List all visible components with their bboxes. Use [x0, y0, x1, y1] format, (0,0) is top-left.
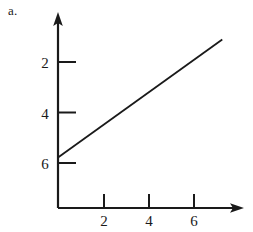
- x-tick-label-2: 2: [100, 213, 108, 229]
- x-axis-tick-labels: 2 4 6: [100, 213, 198, 229]
- data-line-series: [58, 40, 222, 158]
- chart-canvas: 2 4 6 2 4 6: [0, 0, 253, 232]
- y-axis-ticks: [58, 62, 76, 163]
- figure-panel: a. 2 4 6 2: [0, 0, 253, 232]
- x-axis-ticks: [104, 194, 194, 208]
- x-tick-label-6: 6: [190, 213, 198, 229]
- y-tick-label-6: 2: [41, 55, 49, 71]
- x-axis: [58, 203, 244, 213]
- y-axis: [53, 12, 63, 208]
- x-tick-label-4: 4: [145, 213, 153, 229]
- y-tick-label-2: 6: [41, 156, 49, 172]
- y-axis-tick-labels: 2 4 6: [41, 55, 49, 172]
- y-tick-label-4: 4: [41, 106, 49, 122]
